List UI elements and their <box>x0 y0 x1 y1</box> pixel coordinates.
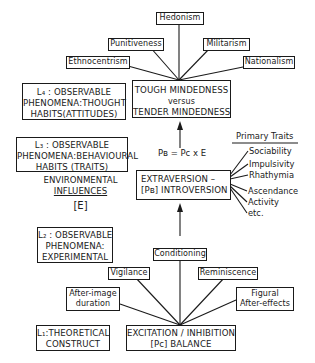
level-4-line1: L₄ : OBSERVABLE <box>23 87 125 98</box>
after-image-line2: duration <box>67 299 119 309</box>
env-line1: ENVIRONMENTAL <box>38 175 123 186</box>
level-2-box: L₂ : OBSERVABLE PHENOMENA: EXPERIMENTAL <box>37 227 113 263</box>
experiment-after-image: After-image duration <box>66 287 120 311</box>
level-3-line2: PHENOMENA:BEHAVIOURAL <box>17 151 127 162</box>
level-4-line3: HABITS(ATTITUDES) <box>23 109 125 120</box>
experiment-conditioning: Conditioning <box>153 248 207 261</box>
env-line3: [E] <box>38 200 123 211</box>
excitation-inhibition-box: EXCITATION / INHIBITION [Pᴄ] BALANCE <box>126 325 236 351</box>
attitude-militarism: Militarism <box>203 38 250 51</box>
extraversion-line1: EXTRAVERSION – <box>141 174 230 185</box>
excitation-line1: EXCITATION / INHIBITION <box>127 328 235 339</box>
level-2-line2: PHENOMENA: <box>38 241 112 252</box>
trait-etc: etc. <box>248 208 264 218</box>
tough-mindedness-box: TOUGH MINDEDNESS versus TENDER MINDEDNES… <box>132 80 231 118</box>
attitude-hedonism: Hedonism <box>156 12 204 25</box>
level-3-line3: HABITS (TRAITS) <box>17 162 127 173</box>
trait-activity: Activity <box>248 197 279 207</box>
tough-line1: TOUGH MINDEDNESS <box>133 85 230 96</box>
experiment-figural-after-effects: Figural After-effects <box>236 287 294 311</box>
figural-line2: After-effects <box>237 299 293 309</box>
level-1-box: L₁:THEORETICAL CONSTRUCT <box>36 325 110 351</box>
level-1-line1: L₁:THEORETICAL <box>37 328 109 339</box>
environmental-influences: ENVIRONMENTAL INFLUENCES [E] <box>38 175 123 211</box>
level-3-line1: L₃ : OBSERVABLE <box>17 140 127 151</box>
level-1-line2: CONSTRUCT <box>37 339 109 350</box>
trait-impulsivity: Impulsivity <box>249 159 294 169</box>
env-line2: INFLUENCES <box>38 186 123 197</box>
attitude-nationalism: Nationalism <box>243 56 295 69</box>
trait-rhathymia: Rhathymia <box>249 170 294 180</box>
experiment-vigilance: Vigilance <box>108 267 150 280</box>
trait-sociability: Sociability <box>249 146 292 156</box>
extraversion-line2: [Pʙ] INTROVERSION <box>141 185 230 196</box>
excitation-line2: [Pᴄ] BALANCE <box>127 339 235 350</box>
after-image-line1: After-image <box>67 289 119 299</box>
experiment-reminiscence: Reminiscence <box>198 267 258 280</box>
attitude-punitiveness: Punitiveness <box>108 38 164 51</box>
level-2-line3: EXPERIMENTAL <box>38 252 112 263</box>
trait-ascendance: Ascendance <box>248 186 298 196</box>
primary-traits-title: Primary Traits <box>236 131 293 141</box>
level-4-line2: PHENOMENA:THOUGHT <box>23 98 125 109</box>
level-3-box: L₃ : OBSERVABLE PHENOMENA:BEHAVIOURAL HA… <box>16 137 128 172</box>
level-4-box: L₄ : OBSERVABLE PHENOMENA:THOUGHT HABITS… <box>22 83 126 120</box>
tough-line2: versus <box>133 96 230 107</box>
tough-line3: TENDER MINDEDNESS <box>133 107 230 118</box>
level-2-line1: L₂ : OBSERVABLE <box>38 230 112 241</box>
formula-label: Pʙ = Pᴄ x E <box>157 148 207 158</box>
figural-line1: Figural <box>237 289 293 299</box>
attitude-ethnocentrism: Ethnocentrism <box>66 56 130 69</box>
extraversion-box: EXTRAVERSION – [Pʙ] INTROVERSION <box>136 170 231 200</box>
